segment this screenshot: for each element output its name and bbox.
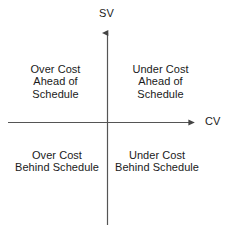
quadrant-label-over-cost-ahead-of-schedule: Over Cost Ahead of Schedule: [8, 63, 103, 100]
quadrant-diagram: SV CV Over Cost Ahead of Schedule Under …: [0, 0, 233, 234]
quadrant-label-over-cost-behind-schedule: Over Cost Behind Schedule: [10, 149, 104, 174]
vertical-axis-label: SV: [99, 7, 114, 19]
quadrant-label-under-cost-ahead-of-schedule: Under Cost Ahead of Schedule: [113, 63, 208, 100]
horizontal-axis-label: CV: [205, 115, 220, 127]
axes-graphic: [0, 0, 233, 234]
quadrant-label-under-cost-behind-schedule: Under Cost Behind Schedule: [110, 149, 204, 174]
